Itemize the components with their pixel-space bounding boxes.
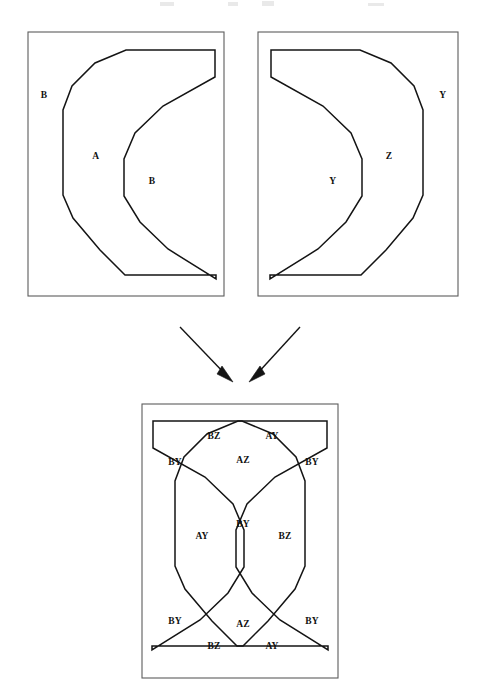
left-panel-border [28, 32, 224, 296]
right-source-panel: Y Z Y [258, 32, 458, 296]
arrow-left-shaft [180, 327, 226, 375]
overlay-label-top-az: AZ [236, 455, 250, 465]
overlay-label-mid-by: BY [236, 519, 250, 529]
overlay-label-mid-ay: AY [195, 531, 208, 541]
arrow-right-to-combined [249, 327, 300, 382]
left-label-outer-b: B [41, 90, 48, 100]
overlay-label-mid-bz: BZ [278, 531, 291, 541]
left-label-inner-b: B [149, 176, 156, 186]
arrow-left-to-combined [180, 327, 233, 382]
overlay-label-topleft-by: BY [168, 457, 182, 467]
figure-root: B A B Y Z Y BZ [0, 0, 479, 688]
overlay-label-botright-by: BY [305, 616, 319, 626]
right-panel-border [258, 32, 458, 296]
overlay-label-bot-ay: AY [265, 641, 278, 651]
left-label-ring-a: A [92, 151, 99, 161]
arrow-right-shaft [256, 327, 300, 375]
overlay-label-bot-bz: BZ [207, 641, 220, 651]
overlay-label-bot-az: AZ [236, 619, 250, 629]
right-label-outer-y: Y [439, 90, 446, 100]
right-label-ring-z: Z [386, 151, 393, 161]
bottom-panel-border [142, 404, 338, 678]
overlay-label-botleft-by: BY [168, 616, 182, 626]
right-label-inner-y: Y [329, 176, 336, 186]
left-source-panel: B A B [28, 32, 224, 296]
overlay-label-topright-by: BY [305, 457, 319, 467]
scan-artifacts [160, 1, 384, 6]
combination-arrows [180, 327, 300, 382]
overlay-label-top-bz: BZ [207, 431, 220, 441]
combined-overlay-panel: BZ AY AZ BY BY AY BY BZ BY BY AZ BZ AY [142, 404, 338, 678]
overlay-label-top-ay: AY [265, 431, 278, 441]
venn-overlay-diagram: B A B Y Z Y BZ [0, 0, 479, 688]
